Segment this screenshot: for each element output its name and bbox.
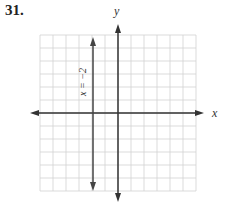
line-down-arrow-icon <box>90 182 96 191</box>
y-axis-down-arrow-icon <box>115 193 121 202</box>
y-axis-up-arrow-icon <box>115 24 121 33</box>
x-axis-right-arrow-icon <box>195 110 204 116</box>
x-axis-left-arrow-icon <box>30 110 39 116</box>
line-label: x = −2 <box>77 68 88 97</box>
y-axis-label: y <box>113 4 120 18</box>
line-up-arrow-icon <box>90 37 96 46</box>
x-axis-label: x <box>211 106 218 120</box>
coordinate-graph: x y x = −2 <box>0 0 232 206</box>
